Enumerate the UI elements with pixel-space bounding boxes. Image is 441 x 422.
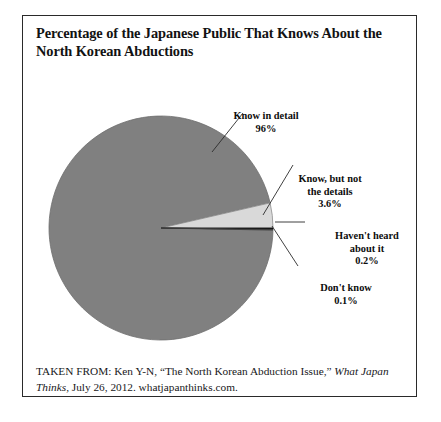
citation-suffix: July 26, 2012. whatjapanthinks.com. xyxy=(69,381,238,393)
slice-label-dont-know-text: Don't know xyxy=(320,282,372,293)
slice-label-know-in-detail: Know in detail 96% xyxy=(218,110,314,135)
slice-label-know-not-the-details: Know, but not the details 3.6% xyxy=(284,173,376,211)
slice-value-know-not-the-details: 3.6% xyxy=(284,198,376,211)
slice-label-know-not-the-details-line-2: the details xyxy=(307,186,352,197)
slice-value-dont-know: 0.1% xyxy=(308,295,384,308)
slice-label-know-not-the-details-line-1: Know, but not xyxy=(298,173,361,184)
leader-line-dont-know xyxy=(272,226,298,266)
slice-label-havent-heard-line-1: Haven't heard xyxy=(335,230,399,241)
slice-value-know-in-detail: 96% xyxy=(218,123,314,136)
slice-label-havent-heard-about-it: Haven't heard about it 0.2% xyxy=(327,230,407,268)
slice-label-havent-heard-line-2: about it xyxy=(350,243,384,254)
slice-value-havent-heard-about-it: 0.2% xyxy=(327,255,407,268)
slice-label-dont-know: Don't know 0.1% xyxy=(308,282,384,307)
source-citation: TAKEN FROM: Ken Y-N, “The North Korean A… xyxy=(36,364,400,395)
slice-label-know-in-detail-text: Know in detail xyxy=(233,110,298,121)
pie-chart-plot-area: Know in detail 96% Know, but not the det… xyxy=(22,15,417,397)
citation-prefix: TAKEN FROM: Ken Y-N, “The North Korean A… xyxy=(36,365,331,377)
